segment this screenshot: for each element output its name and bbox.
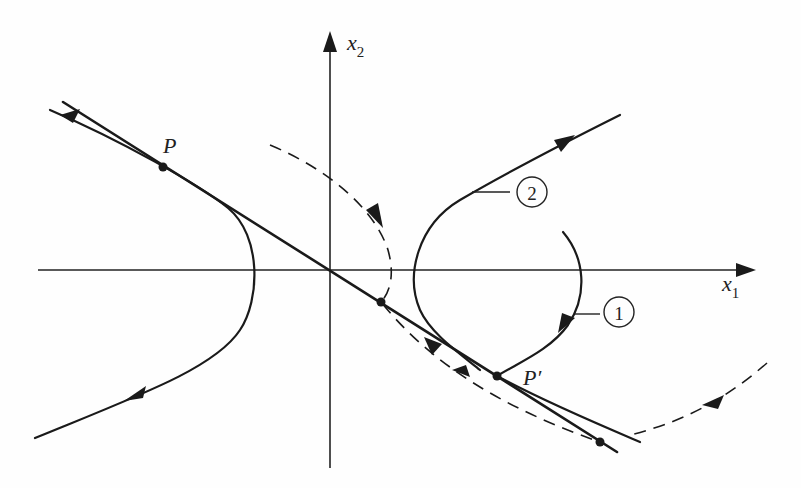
x2-axis-arrow-icon <box>323 31 337 52</box>
eigenvector-line <box>63 102 617 452</box>
trajectory-2-arrow-upper-icon <box>554 135 575 152</box>
dashed-arrow-right-icon <box>702 395 724 409</box>
left-trajectory-arrow-out-icon <box>124 386 146 401</box>
svg-text:2: 2 <box>527 183 537 204</box>
svg-text:1: 1 <box>614 303 624 324</box>
point-P <box>159 163 168 172</box>
phase-portrait-diagram: x1 x2 2 1 <box>0 0 801 488</box>
x2-axis <box>323 31 337 468</box>
point-P-label: P <box>162 133 176 158</box>
trajectory-2-label: 2 <box>472 177 547 207</box>
intersection-point-upper <box>377 298 386 307</box>
x2-axis-label: x2 <box>346 30 364 60</box>
dashed-trajectory-right <box>630 363 767 435</box>
lower-trajectory <box>497 376 640 442</box>
trajectory-1 <box>497 232 581 376</box>
trajectory-2 <box>414 115 620 370</box>
x1-axis-arrow-icon <box>736 263 756 277</box>
point-P-prime <box>493 372 502 381</box>
trajectory-1-label: 1 <box>575 297 634 327</box>
dashed-trajectory <box>270 145 600 442</box>
point-P-prime-label: P′ <box>522 365 542 390</box>
intersection-point-lower <box>596 438 605 447</box>
x1-axis <box>38 263 756 277</box>
diagram-svg: x1 x2 2 1 <box>0 0 801 488</box>
left-trajectory <box>35 109 254 438</box>
